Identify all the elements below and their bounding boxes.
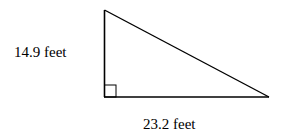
horizontal-leg-label: 23.2 feet <box>143 116 196 131</box>
right-angle-marker <box>105 85 117 97</box>
triangle-diagram: 14.9 feet 23.2 feet <box>0 0 283 131</box>
hypotenuse <box>105 10 270 97</box>
vertical-leg-label: 14.9 feet <box>14 44 67 60</box>
